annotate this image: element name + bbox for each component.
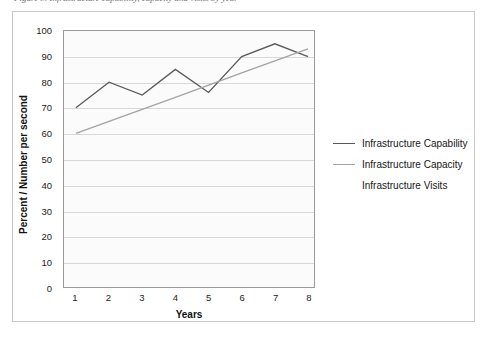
plot-area <box>63 30 315 288</box>
series-line <box>76 49 308 133</box>
chart-legend: Infrastructure CapabilityInfrastructure … <box>333 133 483 196</box>
y-axis-tick: 60 <box>41 128 52 139</box>
y-axis-tick: 80 <box>41 76 52 87</box>
legend-item-label: Infrastructure Capability <box>362 138 468 149</box>
legend-swatch-icon <box>333 164 355 165</box>
y-axis-tick: 100 <box>36 25 52 36</box>
legend-item[interactable]: Infrastructure Capacity <box>333 154 483 175</box>
legend-swatch-icon <box>333 143 355 144</box>
x-axis-tick: 6 <box>239 292 244 303</box>
x-axis-title: Years <box>63 309 315 320</box>
legend-item[interactable]: Infrastructure Capability <box>333 133 483 154</box>
legend-swatch-icon <box>333 185 355 186</box>
x-axis-tick: 3 <box>139 292 144 303</box>
figure-container: Figure 3. Infrastructure capability, cap… <box>0 0 488 351</box>
y-axis-tick: 30 <box>41 205 52 216</box>
y-axis-tick: 0 <box>47 283 52 294</box>
y-axis-tick: 40 <box>41 179 52 190</box>
y-axis-tick-labels: 1009080706050403020100 <box>0 30 58 288</box>
y-axis-tick: 70 <box>41 102 52 113</box>
x-axis-tick: 2 <box>106 292 111 303</box>
y-axis-tick: 50 <box>41 154 52 165</box>
x-axis-tick: 7 <box>273 292 278 303</box>
y-axis-tick: 90 <box>41 50 52 61</box>
x-axis-tick: 5 <box>206 292 211 303</box>
series-lines <box>64 31 314 287</box>
series-line <box>76 44 308 108</box>
figure-caption-text: Figure 3. Infrastructure capability, cap… <box>14 0 238 3</box>
y-axis-tick: 10 <box>41 257 52 268</box>
x-axis-tick: 4 <box>173 292 178 303</box>
x-axis-tick-labels: 12345678 <box>63 292 315 306</box>
legend-item-label: Infrastructure Capacity <box>362 159 463 170</box>
x-axis-tick: 1 <box>72 292 77 303</box>
y-axis-tick: 20 <box>41 231 52 242</box>
legend-item-label: Infrastructure Visits <box>362 180 447 191</box>
legend-item[interactable]: Infrastructure Visits <box>333 175 483 196</box>
x-axis-tick: 8 <box>306 292 311 303</box>
figure-caption-strip: Figure 3. Infrastructure capability, cap… <box>0 0 488 9</box>
y-axis-title: Percent / Number per second <box>18 60 29 270</box>
